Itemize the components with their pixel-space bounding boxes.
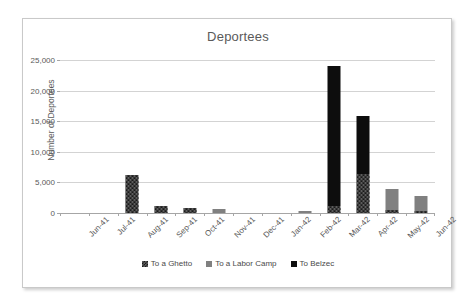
- bar-stack[interactable]: [414, 196, 427, 213]
- bar-category-slot[interactable]: [60, 60, 89, 213]
- bar-segment[interactable]: [414, 211, 427, 213]
- x-axis-tick-label: Oct-41: [203, 215, 226, 238]
- x-axis-tick-label: Jul-41: [116, 215, 138, 237]
- legend-swatch-icon: [206, 261, 212, 267]
- x-axis-tick-label: Sep-41: [175, 215, 200, 240]
- bar-segment[interactable]: [299, 211, 312, 213]
- chart-frame: Deportees Number of Deportees 05,00010,0…: [22, 18, 452, 288]
- bar-category-slot[interactable]: [377, 60, 406, 213]
- y-axis-tick-label: 5,000: [35, 178, 55, 187]
- x-axis-tick-label: May-42: [406, 215, 431, 240]
- bar-stack[interactable]: [126, 175, 139, 213]
- legend-label: To a Ghetto: [151, 259, 192, 268]
- bar-stack[interactable]: [356, 116, 369, 213]
- bar-category-slot[interactable]: [348, 60, 377, 213]
- legend-item[interactable]: To a Labor Camp: [206, 259, 276, 268]
- bar-stack[interactable]: [299, 211, 312, 213]
- x-axis-tick-label: Dec-41: [261, 215, 286, 240]
- bar-category-slot[interactable]: [89, 60, 118, 213]
- bar-series-group: [60, 60, 435, 213]
- bar-category-slot[interactable]: [204, 60, 233, 213]
- x-axis-tick-label: Mar-42: [347, 215, 371, 239]
- bar-segment[interactable]: [183, 208, 196, 214]
- x-axis-tick-label: Jun-41: [88, 215, 112, 239]
- bar-segment[interactable]: [328, 206, 341, 213]
- bar-segment[interactable]: [212, 209, 225, 213]
- x-axis-tick-label: Aug-41: [146, 215, 171, 240]
- bar-category-slot[interactable]: [118, 60, 147, 213]
- bar-segment[interactable]: [126, 175, 139, 213]
- x-axis-tick-label: Apr-42: [376, 215, 399, 238]
- x-axis-line: [60, 213, 435, 214]
- x-axis-tick-label: Jan-42: [290, 215, 314, 239]
- bar-stack[interactable]: [183, 208, 196, 214]
- bar-stack[interactable]: [212, 209, 225, 213]
- bar-segment[interactable]: [385, 189, 398, 210]
- bar-category-slot[interactable]: [406, 60, 435, 213]
- legend-label: To Belzec: [300, 259, 335, 268]
- bar-category-slot[interactable]: [233, 60, 262, 213]
- bar-segment[interactable]: [385, 210, 398, 213]
- x-axis-tick-labels: Jun-41Jul-41Aug-41Sep-41Oct-41Nov-41Dec-…: [60, 215, 435, 265]
- legend-item[interactable]: To Belzec: [291, 259, 335, 268]
- bar-category-slot[interactable]: [320, 60, 349, 213]
- plot-area: 05,00010,00015,00020,00025,000: [60, 60, 435, 213]
- bar-stack[interactable]: [328, 66, 341, 213]
- x-axis-tick-label: Feb-42: [319, 215, 343, 239]
- bar-segment[interactable]: [414, 196, 427, 211]
- x-axis-tick-label: Jun-42: [434, 215, 458, 239]
- x-axis-tick-label: Nov-41: [232, 215, 257, 240]
- bar-segment[interactable]: [328, 66, 341, 206]
- bar-category-slot[interactable]: [291, 60, 320, 213]
- legend-swatch-icon: [142, 261, 148, 267]
- y-axis-tick-label: 10,000: [31, 147, 55, 156]
- bar-category-slot[interactable]: [175, 60, 204, 213]
- bar-category-slot[interactable]: [262, 60, 291, 213]
- bar-stack[interactable]: [154, 206, 167, 213]
- bar-segment[interactable]: [154, 206, 167, 213]
- y-axis-tick-label: 25,000: [31, 56, 55, 65]
- legend-item[interactable]: To a Ghetto: [142, 259, 192, 268]
- y-axis-tick-label: 0: [51, 209, 55, 218]
- bar-category-slot[interactable]: [147, 60, 176, 213]
- y-axis-tick-label: 15,000: [31, 117, 55, 126]
- legend-swatch-icon: [291, 261, 297, 267]
- bar-segment[interactable]: [356, 116, 369, 174]
- chart-legend: To a GhettoTo a Labor CampTo Belzec: [23, 259, 453, 268]
- bar-segment[interactable]: [356, 174, 369, 213]
- legend-label: To a Labor Camp: [215, 259, 276, 268]
- y-axis-tick-label: 20,000: [31, 86, 55, 95]
- chart-title: Deportees: [23, 29, 453, 44]
- screenshot-root: Deportees Number of Deportees 05,00010,0…: [0, 0, 473, 301]
- bar-stack[interactable]: [385, 189, 398, 213]
